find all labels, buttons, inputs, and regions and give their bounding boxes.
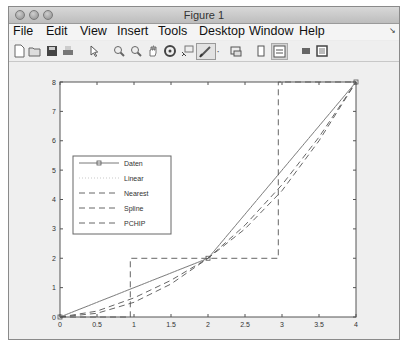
legend-box[interactable] [73,156,171,234]
legend[interactable]: DatenLinearNearestSplinePCHIP [73,156,171,234]
x-tick-label: 3.5 [314,321,324,328]
y-tick-label: 5 [52,167,56,174]
y-tick-label: 2 [52,255,56,262]
x-tick-label: 2.5 [240,321,250,328]
x-tick-label: 0.5 [92,321,102,328]
y-tick-label: 3 [52,225,56,232]
legend-label: Daten [124,160,143,167]
y-tick-label: 6 [52,137,56,144]
y-tick-label: 1 [52,284,56,291]
y-tick-label: 0 [52,314,56,321]
y-tick-label: 7 [52,108,56,115]
x-tick-label: 1 [132,321,136,328]
legend-label: PCHIP [124,220,146,227]
x-tick-label: 3 [280,321,284,328]
legend-label: Spline [124,205,144,213]
legend-label: Linear [124,175,144,182]
plot-svg: 00.511.522.533.54012345678 DatenLinearNe… [0,0,401,359]
y-tick-label: 8 [52,79,56,86]
x-tick-label: 4 [354,321,358,328]
x-tick-label: 1.5 [166,321,176,328]
x-tick-label: 0 [58,321,62,328]
y-tick-label: 4 [52,196,56,203]
x-tick-label: 2 [206,321,210,328]
legend-label: Nearest [124,190,149,197]
